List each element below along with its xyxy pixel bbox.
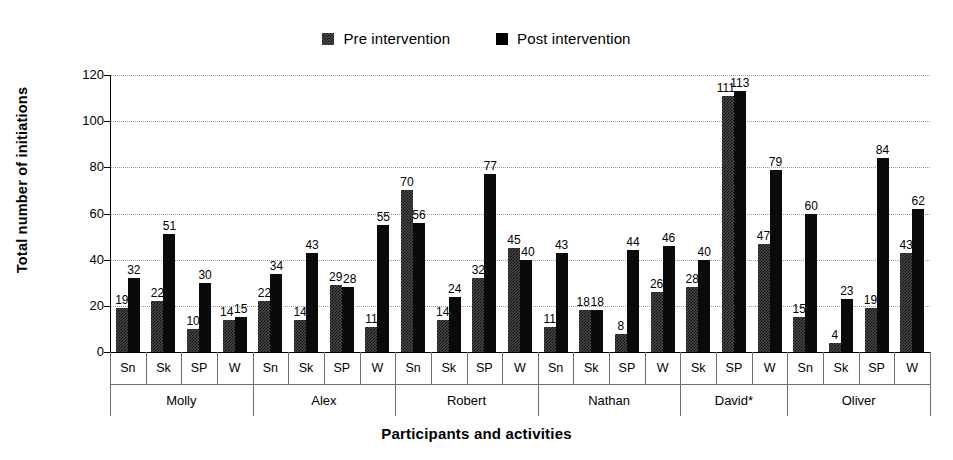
- activity-label-sk: Sk: [823, 352, 859, 384]
- bar-group: 3277: [467, 75, 503, 352]
- bar-value-label-pre: 15: [789, 303, 809, 315]
- bar-post-intervention: [377, 225, 389, 352]
- bar-value-label-post: 60: [801, 200, 821, 212]
- activity-label-sk: Sk: [573, 352, 609, 384]
- y-tick-label-60: 60: [70, 206, 104, 221]
- activity-separator: [609, 352, 610, 384]
- bar-group: 1030: [181, 75, 217, 352]
- y-tick-mark-0: [104, 352, 110, 353]
- legend-swatch-pre-icon: [322, 33, 334, 45]
- activity-label-sk: Sk: [680, 352, 716, 384]
- participant-label-david: David*: [680, 384, 787, 416]
- bar-value-label-post: 28: [340, 273, 360, 285]
- bar-value-label-post: 43: [552, 239, 572, 251]
- bar-value-label-pre: 32: [468, 264, 488, 276]
- y-tick-label-100: 100: [70, 113, 104, 128]
- bar-pre-intervention: [116, 308, 128, 352]
- bar-value-label-pre: 14: [433, 306, 453, 318]
- activity-separator: [146, 352, 147, 384]
- bar-value-label-pre: 19: [112, 294, 132, 306]
- activity-label-sp: SP: [181, 352, 217, 384]
- y-axis-tick-labels: 020406080100120: [64, 75, 104, 352]
- bar-value-label-post: 32: [124, 264, 144, 276]
- bar-group: 4779: [752, 75, 788, 352]
- bar-value-label-post: 24: [445, 283, 465, 295]
- bar-value-label-pre: 28: [682, 273, 702, 285]
- y-tick-mark-20: [104, 306, 110, 307]
- bar-pre-intervention: [865, 308, 877, 352]
- bar-group: 1818: [573, 75, 609, 352]
- bar-value-label-post: 55: [373, 211, 393, 223]
- bar-pre-intervention: [294, 320, 306, 352]
- axis-edge-right: [930, 352, 931, 416]
- bar-post-intervention: [235, 317, 247, 352]
- activity-label-sp: SP: [609, 352, 645, 384]
- bar-value-label-pre: 8: [611, 320, 631, 332]
- participant-separator: [538, 352, 539, 416]
- activity-label-sn: Sn: [110, 352, 146, 384]
- y-tick-label-40: 40: [70, 252, 104, 267]
- y-tick-mark-100: [104, 121, 110, 122]
- bar-pre-intervention: [579, 310, 591, 352]
- bar-post-intervention: [734, 91, 746, 352]
- bar-group: 1155: [360, 75, 396, 352]
- bar-group: 1984: [859, 75, 895, 352]
- bar-post-intervention: [877, 158, 889, 352]
- bar-group: 2840: [680, 75, 716, 352]
- bar-value-label-pre: 70: [397, 176, 417, 188]
- participant-label-oliver: Oliver: [787, 384, 930, 416]
- x-axis-title: Participants and activities: [0, 425, 953, 442]
- activity-label-w: W: [645, 352, 681, 384]
- y-tick-mark-80: [104, 167, 110, 168]
- y-tick-label-120: 120: [70, 67, 104, 82]
- activity-label-sp: SP: [324, 352, 360, 384]
- bar-group: 1443: [288, 75, 324, 352]
- activity-separator: [573, 352, 574, 384]
- activity-separator: [217, 352, 218, 384]
- activity-label-w: W: [360, 352, 396, 384]
- activity-label-w: W: [502, 352, 538, 384]
- bar-group: 2251: [146, 75, 182, 352]
- bar-value-label-post: 34: [266, 260, 286, 272]
- bar-group: 1560: [787, 75, 823, 352]
- activity-label-sn: Sn: [395, 352, 431, 384]
- bar-value-label-pre: 11: [540, 313, 560, 325]
- bar-pre-intervention: [722, 96, 734, 352]
- bar-value-label-pre: 4: [825, 329, 845, 341]
- activity-label-sp: SP: [467, 352, 503, 384]
- activity-separator: [324, 352, 325, 384]
- bar-pre-intervention: [615, 334, 627, 352]
- activity-separator: [859, 352, 860, 384]
- bar-pre-intervention: [829, 343, 841, 352]
- bar-post-intervention: [591, 310, 603, 352]
- bar-post-intervention: [128, 278, 140, 352]
- bar-value-label-post: 40: [518, 246, 538, 258]
- bar-pre-intervention: [508, 248, 520, 352]
- legend-item-post-intervention: Post intervention: [496, 30, 630, 47]
- legend-label-post: Post intervention: [517, 30, 630, 47]
- activity-label-sn: Sn: [787, 352, 823, 384]
- bar-value-label-pre: 14: [290, 306, 310, 318]
- activity-separator: [181, 352, 182, 384]
- activity-label-sp: SP: [859, 352, 895, 384]
- bar-value-label-post: 56: [409, 209, 429, 221]
- bar-post-intervention: [663, 246, 675, 352]
- bar-group: 7056: [395, 75, 431, 352]
- activity-label-sk: Sk: [288, 352, 324, 384]
- y-axis-title-text: Total number of initiations: [14, 87, 30, 273]
- bar-pre-intervention: [758, 244, 770, 352]
- bar-pre-intervention: [686, 287, 698, 352]
- bar-pre-intervention: [258, 301, 270, 352]
- bar-post-intervention: [805, 214, 817, 353]
- bar-post-intervention: [306, 253, 318, 352]
- activity-separator: [716, 352, 717, 384]
- bar-group: 4362: [894, 75, 930, 352]
- bar-pre-intervention: [365, 327, 377, 352]
- bar-post-intervention: [627, 250, 639, 352]
- bar-pre-intervention: [472, 278, 484, 352]
- activity-separator: [645, 352, 646, 384]
- participant-label-molly: Molly: [110, 384, 253, 416]
- activity-axis: SnSkSPWSnSkSPWSnSkSPWSnSkSPWSkSPWSnSkSPW: [110, 352, 931, 384]
- activity-separator: [360, 352, 361, 384]
- bar-group: 1143: [538, 75, 574, 352]
